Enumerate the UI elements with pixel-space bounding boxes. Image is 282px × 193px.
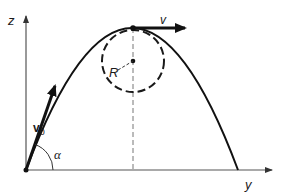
z-axis-label: z [8,14,15,27]
radius-label: R [109,66,118,79]
initial-velocity-label: v0 [33,122,45,134]
launch-angle-label: α [54,148,61,161]
diagram-canvas [0,0,282,193]
y-axis-label: y [245,178,252,191]
apex-velocity-label: v [160,14,166,26]
radius-line [118,61,133,70]
launch-angle-arc [35,145,53,171]
projectile-diagram: z y v0 v R α [0,0,282,193]
initial-velocity-symbol: v [33,121,40,135]
initial-velocity-subscript: 0 [40,127,45,137]
